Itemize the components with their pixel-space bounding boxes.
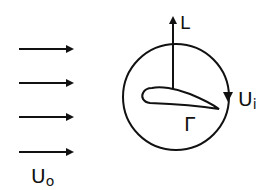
induced-velocity-label: Ui [238,87,257,112]
induced-velocity-arrowhead [223,92,233,102]
lift-label: L [180,12,190,33]
freestream-label: Uo [31,164,54,189]
airfoil-shape [142,87,219,109]
circulation-label: Γ [184,112,196,136]
diagram-canvas: Uo L Ui Γ [0,0,271,190]
freestream-arrows [19,49,72,152]
